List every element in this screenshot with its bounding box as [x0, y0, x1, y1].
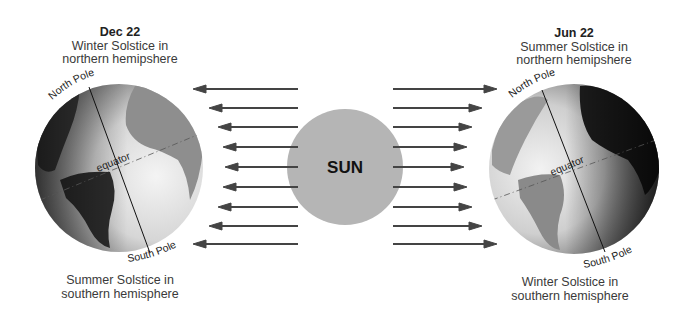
left-top-caption-line1: Winter Solstice in	[60, 40, 180, 54]
arrow-right-icon	[393, 222, 482, 230]
arrow-left-icon	[193, 85, 298, 93]
arrow-left-icon	[193, 240, 298, 248]
left-top-caption: Dec 22 Winter Solstice in northern hemip…	[60, 26, 180, 67]
sun: SUN	[287, 109, 403, 225]
arrow-right-icon	[393, 85, 497, 93]
arrow-right-icon	[393, 240, 497, 248]
arrow-right-icon	[393, 104, 482, 112]
right-bottom-caption-line1: Winter Solstice in	[510, 276, 630, 290]
arrow-right-icon	[393, 163, 464, 171]
arrow-left-icon	[223, 183, 298, 191]
right-globe: North Pole South Pole equator	[489, 65, 660, 270]
right-top-caption: Jun 22 Summer Solstice in northern hemip…	[514, 27, 634, 68]
right-sunlight-arrows	[393, 85, 497, 248]
left-bottom-caption-line2: southern hemisphere	[60, 288, 180, 302]
left-globe: North Pole South Pole equator	[35, 66, 203, 264]
arrow-right-icon	[393, 123, 472, 131]
arrow-right-icon	[393, 183, 467, 191]
left-sunlight-arrows	[193, 85, 298, 248]
arrow-left-icon	[218, 123, 298, 131]
left-top-caption-line2: northern hemipshere	[60, 53, 180, 67]
sun-label: SUN	[327, 158, 363, 177]
right-top-caption-line1: Summer Solstice in	[514, 41, 634, 55]
right-date: Jun 22	[514, 27, 634, 41]
left-bottom-caption-line1: Summer Solstice in	[60, 274, 180, 288]
right-bottom-caption-line2: southern hemisphere	[510, 290, 630, 304]
right-bottom-caption: Winter Solstice in southern hemisphere	[510, 276, 630, 303]
left-bottom-caption: Summer Solstice in southern hemisphere	[60, 274, 180, 301]
right-top-caption-line2: northern hemipshere	[514, 54, 634, 68]
arrow-left-icon	[223, 143, 298, 151]
arrow-left-icon	[209, 222, 298, 230]
arrow-left-icon	[209, 104, 298, 112]
arrow-left-icon	[218, 203, 298, 211]
left-date: Dec 22	[60, 26, 180, 40]
arrow-left-icon	[225, 163, 298, 171]
arrow-right-icon	[393, 143, 467, 151]
arrow-right-icon	[393, 203, 472, 211]
